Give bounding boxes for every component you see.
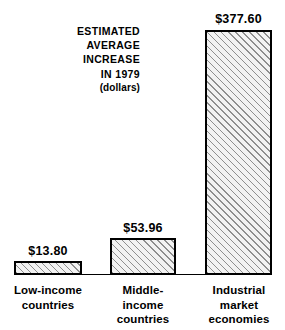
category-label-industrial-line-3: economies <box>209 313 270 325</box>
bar-value-label-industrial: $377.60 <box>204 12 273 26</box>
category-label-middle-income: Middle- income countries <box>99 283 187 327</box>
category-label-low-income-line-2: countries <box>22 299 75 311</box>
bar-low-income-countries <box>14 261 82 275</box>
category-label-industrial: Industrial market economies <box>193 283 285 327</box>
category-label-low-income: Low-income countries <box>0 283 96 312</box>
category-label-middle-income-line-1: Middle- <box>123 284 164 296</box>
bar-value-label-low-income: $13.80 <box>14 244 82 258</box>
category-label-industrial-line-2: market <box>220 299 258 311</box>
category-label-low-income-line-1: Low-income <box>14 284 82 296</box>
plot-area: $13.80 $53.96 $377.60 Low-income countri… <box>0 0 285 330</box>
bar-value-label-middle-income: $53.96 <box>109 221 177 235</box>
category-label-middle-income-line-2: income <box>123 299 164 311</box>
bar-chart-figure: ESTIMATED AVERAGE INCREASE IN 1979 (doll… <box>0 0 285 330</box>
category-label-middle-income-line-3: countries <box>117 313 170 325</box>
category-label-industrial-line-1: Industrial <box>213 284 266 296</box>
bar-industrial-market-economies <box>205 30 272 275</box>
x-axis-baseline <box>14 274 272 275</box>
bar-middle-income-countries <box>110 238 176 275</box>
